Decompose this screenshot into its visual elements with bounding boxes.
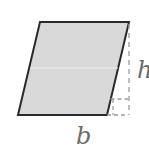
parallelogram-diagram: h b	[0, 0, 149, 158]
base-label: b	[76, 122, 91, 150]
height-label: h	[137, 56, 149, 84]
